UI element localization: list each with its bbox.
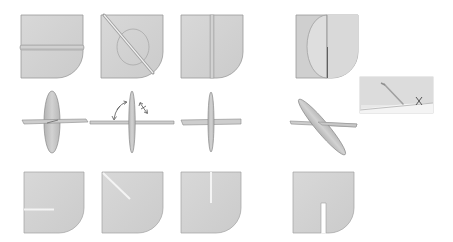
cut-slot	[24, 209, 54, 211]
card-horizontal-fold	[20, 15, 84, 78]
slot-left-horizontal	[24, 172, 84, 233]
cross-wide-disc	[22, 91, 88, 153]
vertical-disc	[129, 91, 135, 153]
card-half-disc	[296, 15, 358, 78]
slot-top-vertical	[181, 172, 241, 233]
slot-bottom-vertical	[293, 172, 354, 234]
vertical-disc	[208, 92, 214, 152]
card-vertical-fold	[181, 15, 243, 78]
cut-slot	[210, 172, 212, 203]
slot-diagonal	[102, 172, 163, 233]
fold-line	[20, 45, 84, 50]
cut-slot	[321, 203, 326, 234]
assembly-diagram: X	[0, 0, 453, 242]
rotation-arrow-right-icon	[140, 103, 147, 113]
tilted-disc	[294, 96, 349, 159]
card-diagonal-fold-ring	[101, 15, 163, 78]
inset-detail	[360, 77, 433, 113]
cross-thin	[181, 92, 241, 152]
cross-with-arrows	[90, 91, 174, 153]
horizontal-plate	[22, 119, 88, 124]
cross-tilted	[290, 96, 357, 159]
